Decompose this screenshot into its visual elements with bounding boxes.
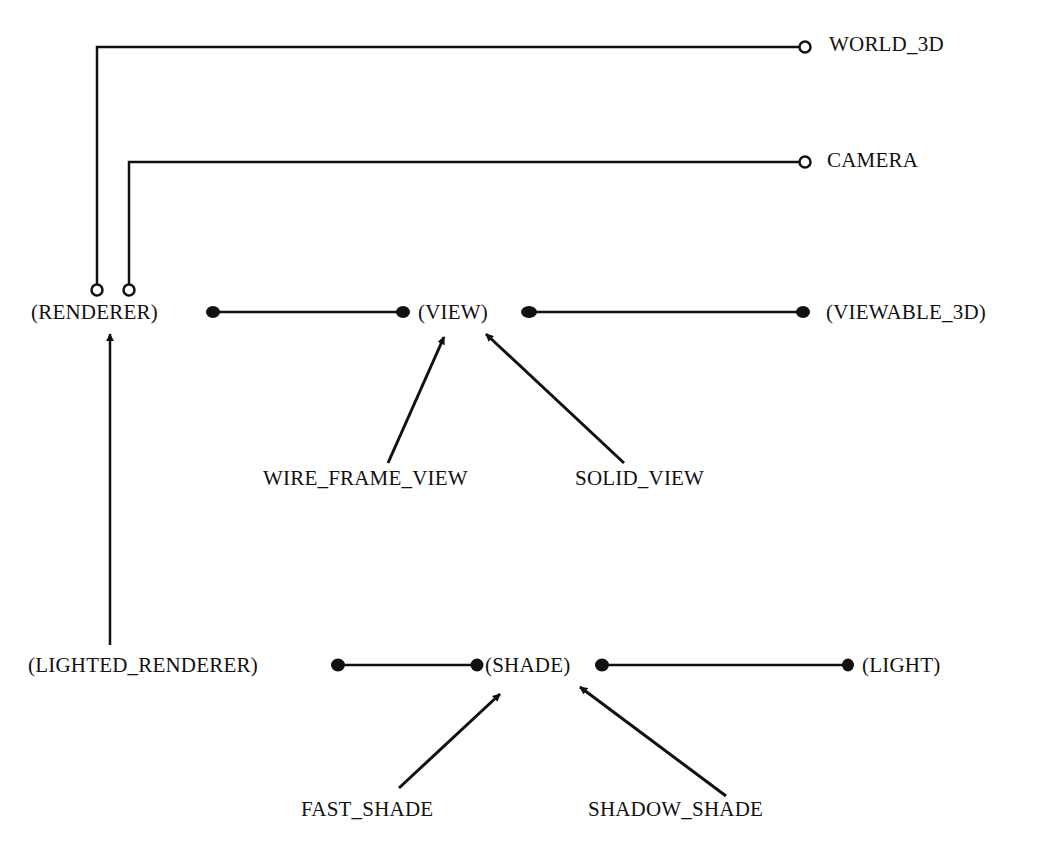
filled-dot-icon	[206, 306, 220, 318]
node-lighted-renderer: (LIGHTED_RENDERER)	[28, 653, 258, 677]
node-light: (LIGHT)	[862, 653, 940, 677]
node-solid-view: SOLID_VIEW	[575, 466, 704, 490]
edge-renderer-camera	[124, 157, 811, 296]
edge-fastshade-shade	[399, 694, 500, 788]
open-circle-icon	[124, 285, 135, 296]
filled-dot-icon	[842, 659, 854, 672]
filled-dot-icon	[796, 306, 810, 318]
open-circle-icon	[800, 157, 811, 168]
node-shade: (SHADE)	[485, 653, 570, 677]
node-shadow-shade: SHADOW_SHADE	[588, 797, 763, 821]
node-viewable-3d: (VIEWABLE_3D)	[826, 300, 986, 324]
edge-wireframeview-view	[388, 337, 444, 463]
filled-dot-icon	[471, 659, 484, 672]
filled-dot-icon	[521, 306, 537, 318]
node-camera: CAMERA	[827, 148, 918, 172]
filled-dot-icon	[595, 659, 609, 672]
edge-view-viewable3d	[521, 306, 810, 318]
edge-solidview-view	[486, 334, 624, 463]
node-renderer: (RENDERER)	[31, 300, 158, 324]
open-circle-icon	[92, 285, 103, 296]
filled-dot-icon	[331, 659, 345, 672]
node-view: (VIEW)	[418, 300, 488, 324]
edge-lightedrenderer-shade	[331, 659, 484, 672]
open-circle-icon	[800, 42, 811, 53]
diagram-canvas	[0, 0, 1060, 858]
edge-shadowshade-shade	[580, 687, 726, 796]
node-world-3d: WORLD_3D	[829, 32, 944, 56]
edge-renderer-view	[206, 306, 410, 318]
node-wire-frame-view: WIRE_FRAME_VIEW	[263, 466, 468, 490]
filled-dot-icon	[396, 306, 410, 318]
node-fast-shade: FAST_SHADE	[301, 797, 433, 821]
edge-renderer-world3d	[92, 42, 811, 296]
edge-shade-light	[595, 659, 854, 672]
